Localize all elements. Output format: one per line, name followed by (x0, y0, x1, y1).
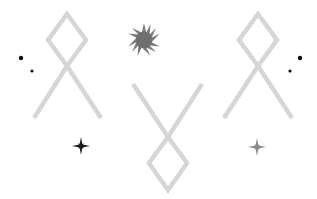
dot-icon (298, 56, 302, 60)
othala-rune-left (34, 14, 101, 118)
dot-icon (19, 56, 23, 60)
othala-rune-right (224, 14, 292, 118)
sparkle-icon-left (72, 137, 90, 155)
dot-icon (30, 69, 33, 72)
sparkle-icon-right (248, 138, 266, 156)
sunburst-icon (127, 23, 161, 57)
decorative-rune-pattern (0, 0, 317, 199)
othala-rune-center (133, 84, 202, 190)
dot-icon (288, 69, 291, 72)
